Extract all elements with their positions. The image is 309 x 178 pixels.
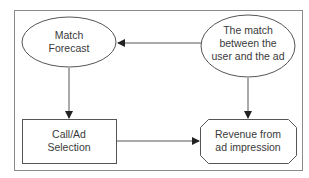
node-label-line: between the bbox=[219, 37, 276, 49]
node-label-line: The match bbox=[223, 24, 273, 36]
node-user-ad-match: The match between the user and the ad bbox=[201, 15, 295, 77]
node-label-line: Forecast bbox=[49, 42, 90, 54]
node-label-line: Call/Ad bbox=[52, 128, 86, 140]
node-label-line: Selection bbox=[47, 141, 90, 153]
node-label-line: Revenue from bbox=[215, 128, 281, 140]
node-call-ad-selection: Call/Ad Selection bbox=[23, 120, 117, 164]
node-label-line: ad impression bbox=[215, 141, 281, 153]
node-label-line: user and the ad bbox=[212, 50, 285, 62]
node-match-forecast: Match Forecast bbox=[22, 17, 116, 67]
node-label-line: Match bbox=[55, 29, 84, 41]
flow-diagram: Match Forecast The match between the use… bbox=[0, 0, 309, 178]
node-revenue: Revenue from ad impression bbox=[201, 120, 297, 164]
